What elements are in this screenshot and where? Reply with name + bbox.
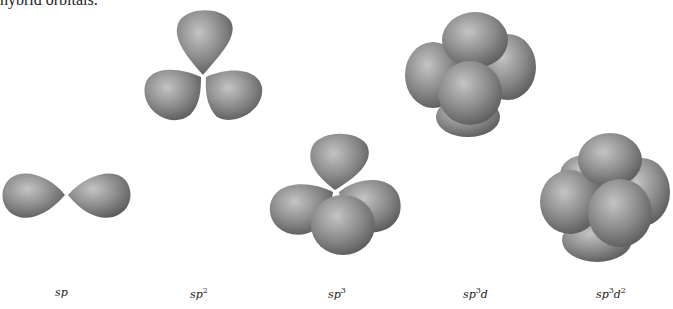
- sp3d2-lobe-front: [588, 179, 652, 247]
- sp2-orbital-figure: [135, 5, 275, 130]
- sp-lobe-left: [2, 174, 65, 218]
- sp3-lobe-front: [311, 195, 375, 255]
- label-sp3d2: sp3d2: [596, 286, 626, 301]
- label-sp3d: sp3d: [463, 286, 488, 301]
- sp3-lobe-top: [310, 134, 369, 190]
- sp2-lobe-left: [144, 70, 201, 121]
- label-sp3: sp3: [328, 286, 346, 301]
- label-sp2: sp2: [190, 286, 208, 301]
- sp-orbital-figure: [0, 160, 140, 240]
- sp-lobe-right: [68, 174, 130, 218]
- sp3d-lobe-front: [438, 61, 502, 125]
- sp3-orbital-figure: [265, 130, 410, 260]
- label-sp: sp: [55, 286, 68, 299]
- sp2-lobe-top: [177, 10, 233, 75]
- figure-caption: hybrid orbitals.: [0, 0, 98, 9]
- sp2-lobe-right: [206, 70, 262, 119]
- sp3d-orbital-figure: [400, 5, 540, 145]
- sp3d2-lobe-top: [578, 133, 642, 187]
- sp3d2-orbital-figure: [535, 130, 673, 265]
- sp3d-lobe-top: [442, 12, 508, 68]
